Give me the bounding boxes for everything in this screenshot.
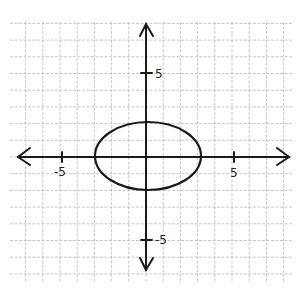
x-tick-label-pos5: 5 [230,166,238,180]
grid-lines [10,22,292,282]
x-axis [18,148,289,165]
y-axis [140,24,153,270]
y-tick-label-neg5: -5 [155,233,167,247]
x-tick-label-neg5: -5 [54,165,66,179]
graph-paper-plot: -5 5 5 -5 [0,0,300,291]
y-tick-label-pos5: 5 [155,67,163,81]
